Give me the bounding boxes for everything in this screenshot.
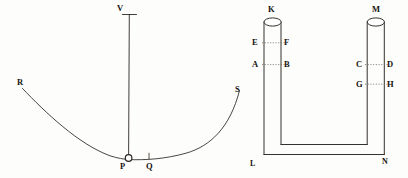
pendulum-bob-circle [125,155,132,162]
label-s: S [235,85,240,94]
figure-root: V R S P Q K M E F A B C D G H L N [0,0,408,178]
label-k: K [268,5,275,14]
label-f: F [284,38,289,47]
label-a: A [252,60,258,69]
suspension-cord-line [129,15,130,158]
label-q: Q [146,162,153,171]
label-e: E [252,38,258,47]
pendulum-group [23,15,240,162]
label-g: G [356,80,363,89]
u-tube-group [262,18,390,155]
label-v: V [117,4,123,13]
label-p: P [120,162,125,171]
label-b: B [284,60,290,69]
label-r: R [17,78,23,87]
label-d: D [387,60,393,69]
arc-right-segment [129,91,240,160]
label-c: C [356,60,362,69]
figure-drawing [0,0,408,178]
label-m: M [372,5,380,14]
arc-left-segment [23,89,129,160]
label-l: L [250,160,256,168]
label-h: H [387,80,394,89]
left-limb-mouth-ellipse [264,18,281,26]
label-n: N [382,158,388,166]
right-limb-mouth-ellipse [367,18,384,26]
